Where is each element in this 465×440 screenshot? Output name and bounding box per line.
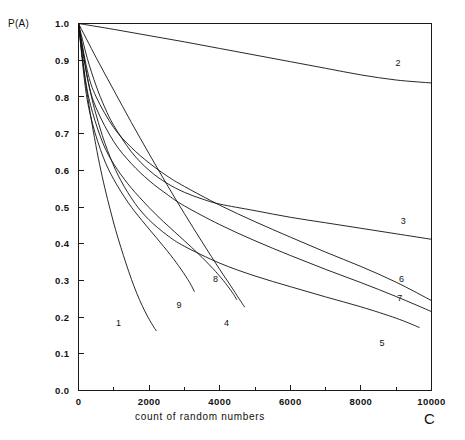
curve-7 xyxy=(79,24,432,312)
y-axis-title: P(A) xyxy=(8,18,29,29)
curve-2 xyxy=(79,24,432,83)
curve-label-3: 3 xyxy=(401,216,406,226)
curve-label-4: 4 xyxy=(224,318,229,328)
y-tick-label: 0.2 xyxy=(55,312,69,323)
x-tick-label: 2000 xyxy=(138,396,161,407)
x-tick-label: 6000 xyxy=(279,396,302,407)
y-tick-label: 0.8 xyxy=(55,92,69,103)
y-axis-ticks: 0.00.10.20.30.40.50.60.70.80.91.0 xyxy=(55,18,83,396)
x-tick-label: 10000 xyxy=(417,396,445,407)
y-tick-label: 1.0 xyxy=(55,18,69,29)
x-axis-title: count of random numbers xyxy=(135,411,265,422)
x-tick-label: 0 xyxy=(76,396,82,407)
y-tick-label: 0.9 xyxy=(55,55,69,66)
curve-label-1: 1 xyxy=(116,318,121,328)
curve-5 xyxy=(79,24,420,328)
curve-labels: 123456789 xyxy=(116,58,406,348)
y-tick-label: 0.4 xyxy=(55,238,70,249)
data-curves xyxy=(79,24,432,331)
curve-label-7: 7 xyxy=(397,293,402,303)
y-tick-label: 0.3 xyxy=(55,275,69,286)
probability-decay-line-chart: P(A) 0.00.10.20.30.40.50.60.70.80.91.0 0… xyxy=(0,0,465,440)
x-axis-symbol: C xyxy=(424,410,435,427)
x-axis-ticks: 0200040006000800010000 xyxy=(76,385,446,407)
curve-4 xyxy=(79,24,245,307)
curve-6 xyxy=(79,24,432,301)
curve-label-8: 8 xyxy=(213,274,218,284)
x-tick-label: 8000 xyxy=(350,396,373,407)
curve-label-9: 9 xyxy=(177,300,182,310)
x-tick-label: 4000 xyxy=(208,396,231,407)
y-tick-label: 0.6 xyxy=(55,165,69,176)
curve-label-6: 6 xyxy=(399,274,404,284)
y-tick-label: 0.0 xyxy=(55,385,69,396)
curve-label-2: 2 xyxy=(395,58,400,68)
y-tick-label: 0.7 xyxy=(55,128,69,139)
chart-container: P(A) 0.00.10.20.30.40.50.60.70.80.91.0 0… xyxy=(0,0,465,440)
y-tick-label: 0.1 xyxy=(55,348,70,359)
y-tick-label: 0.5 xyxy=(55,202,70,213)
curve-label-5: 5 xyxy=(380,338,385,348)
